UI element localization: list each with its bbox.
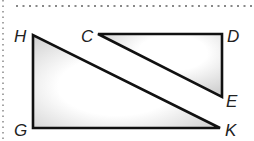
label-G: G (14, 121, 27, 140)
label-C: C (81, 27, 94, 46)
geometry-figure: H C D E G K (0, 0, 254, 141)
label-D: D (227, 27, 239, 46)
label-H: H (14, 27, 27, 46)
label-K: K (225, 121, 237, 140)
label-E: E (226, 92, 238, 111)
